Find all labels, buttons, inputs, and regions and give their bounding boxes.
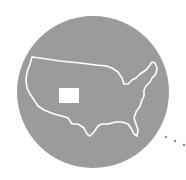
background-circle — [17, 16, 169, 168]
ellipsis-dots-icon — [165, 136, 185, 146]
colorado-state-icon — [59, 88, 79, 103]
usa-colorado-illustration — [0, 0, 186, 180]
